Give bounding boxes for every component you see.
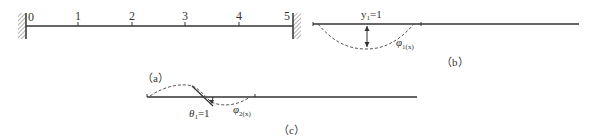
arrow-down-head xyxy=(365,42,370,47)
node-label-3: 3 xyxy=(182,9,188,23)
shape-function-2-label: φ2(x) xyxy=(233,103,251,118)
rotation-tangent xyxy=(192,86,213,106)
shape-function-2-curve xyxy=(150,85,250,105)
caption-a: （a） xyxy=(142,72,169,84)
node-label-4: 4 xyxy=(236,9,242,23)
shape-function-1-label: φ1(x) xyxy=(396,36,414,51)
diagram-canvas: 0 1 2 3 4 5 （a） y1=1 φ1(x) （b） θ1=1 xyxy=(0,0,596,139)
caption-b: （b） xyxy=(441,56,469,68)
rotation-label: θ1=1 xyxy=(189,107,210,121)
node-label-1: 1 xyxy=(75,9,81,23)
caption-c: （c） xyxy=(278,124,305,136)
arrow-up-head xyxy=(365,26,370,31)
node-label-2: 2 xyxy=(129,9,135,23)
node-label-5: 5 xyxy=(284,9,290,23)
node-label-0: 0 xyxy=(28,10,34,24)
displacement-label: y1=1 xyxy=(361,8,382,22)
figure-c: θ1=1 φ2(x) （c） xyxy=(147,85,417,136)
figure-a: 0 1 2 3 4 5 （a） xyxy=(18,9,301,84)
right-fixed-support xyxy=(293,13,301,39)
figure-b: y1=1 φ1(x) （b） xyxy=(313,8,579,68)
left-fixed-support xyxy=(18,13,26,39)
